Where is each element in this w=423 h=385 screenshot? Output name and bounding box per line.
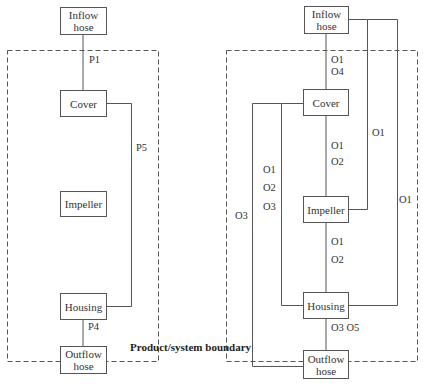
left-flow-label-p1: P1 (89, 54, 100, 66)
right-inflow-hose-label-2: hose (316, 20, 336, 32)
right-flow-label-inflow-housing-o1: O1 (399, 194, 412, 206)
left-cover-box: Cover (60, 90, 107, 117)
right-flow-inflow-housing (348, 20, 398, 306)
left-outflow-hose-box: Outflow hose (60, 346, 107, 374)
left-cover-label: Cover (70, 98, 97, 110)
product-system-boundary-label: Product/system boundary (130, 341, 251, 353)
right-inflow-hose-label-1: Inflow (312, 8, 341, 20)
right-outflow-hose-label-2: hose (316, 365, 336, 377)
left-flow-p5 (106, 104, 132, 307)
right-cover-box: Cover (303, 89, 349, 116)
right-inflow-hose-box: Inflow hose (304, 6, 349, 34)
right-housing-box: Housing (303, 292, 349, 319)
right-flow-label-cover-housing-o3: O3 (263, 201, 276, 213)
right-flow-label-inflow-cover-o1: O1 (331, 54, 344, 66)
right-flow-label-cover-impeller-o1: O1 (331, 140, 344, 152)
right-flow-label-housing-outflow: O3 O5 (331, 322, 359, 334)
right-flow-cover-outflow (253, 104, 304, 367)
left-outflow-hose-label-2: hose (73, 360, 93, 372)
left-outflow-hose-label-1: Outflow (65, 348, 102, 360)
right-impeller-label: Impeller (307, 204, 344, 216)
left-impeller-label: Impeller (65, 198, 102, 210)
right-flow-inflow-impeller (348, 20, 368, 210)
left-impeller-box: Impeller (60, 191, 107, 217)
right-impeller-box: Impeller (303, 196, 349, 223)
right-flow-cover-housing (282, 104, 304, 306)
right-flow-label-cover-outflow-o3: O3 (235, 210, 248, 222)
right-flow-label-cover-housing-o1: O1 (263, 164, 276, 176)
left-flow-label-p4: P4 (88, 321, 99, 333)
left-inflow-hose-box: Inflow hose (60, 7, 107, 35)
left-inflow-hose-label-2: hose (73, 21, 93, 33)
right-cover-label: Cover (313, 97, 340, 109)
left-flow-label-p5: P5 (136, 142, 147, 154)
right-housing-label: Housing (307, 300, 344, 312)
right-flow-label-inflow-impeller-o1: O1 (372, 127, 385, 139)
right-flow-label-cover-impeller-o2: O2 (331, 156, 344, 168)
right-flow-label-inflow-cover-o4: O4 (331, 66, 344, 78)
right-flow-label-impeller-housing-o1: O1 (331, 236, 344, 248)
left-housing-label: Housing (65, 301, 102, 313)
right-flow-label-impeller-housing-o2: O2 (331, 254, 344, 266)
right-flow-label-cover-housing-o2: O2 (263, 182, 276, 194)
right-outflow-hose-label-1: Outflow (308, 353, 345, 365)
right-outflow-hose-box: Outflow hose (303, 350, 349, 379)
left-housing-box: Housing (60, 293, 107, 320)
left-inflow-hose-label-1: Inflow (69, 9, 98, 21)
